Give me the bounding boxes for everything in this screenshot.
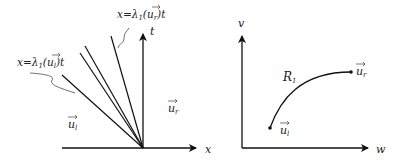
- phase-plane-diagram: v w R1 ur ul: [238, 17, 386, 156]
- right-state-label: ur: [168, 102, 179, 116]
- end-point-label: ur: [356, 65, 367, 79]
- fan-line-3: [85, 46, 143, 148]
- fan-line-right-characteristic: [111, 36, 143, 148]
- end-point: [349, 70, 353, 74]
- start-point: [268, 126, 272, 130]
- t-axis-label: t: [150, 25, 155, 38]
- xt-plane-diagram: t x x=λ1(ul)t x=λ1(ur)t ul ur: [17, 5, 212, 156]
- start-point-label: ul: [280, 124, 289, 138]
- x-axis-label: x: [205, 143, 212, 156]
- left-state-label: ul: [68, 118, 77, 132]
- right-line-leader: [118, 28, 129, 48]
- riemann-rarefaction-diagram: t x x=λ1(ul)t x=λ1(ur)t ul ur v w R1: [0, 0, 401, 165]
- left-characteristic-label: x=λ1(ul)t: [17, 56, 65, 70]
- curve-label: R1: [282, 70, 297, 85]
- v-axis-label: v: [238, 17, 245, 30]
- w-axis-label: w: [376, 143, 386, 156]
- left-line-leader: [30, 73, 75, 93]
- right-characteristic-label: x=λ1(ur)t: [117, 8, 166, 22]
